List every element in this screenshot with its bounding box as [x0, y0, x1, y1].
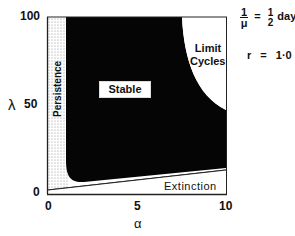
- limit-cycles-label-line2: Cycles: [190, 55, 224, 67]
- inv-mu-fraction: 1 μ: [240, 7, 248, 28]
- y-tick-50: 50: [24, 97, 37, 111]
- x-tick-0: 0: [45, 199, 52, 213]
- stable-label: Stable: [99, 81, 151, 98]
- x-tick-5: 5: [134, 199, 141, 213]
- y-tick-100: 100: [20, 9, 40, 23]
- mu-parameter: 1 μ = 1 2 day: [240, 7, 295, 28]
- x-axis-label: α: [134, 216, 142, 231]
- y-tick-0: 0: [33, 185, 40, 199]
- extinction-label: Extinction: [164, 180, 217, 192]
- r-parameter: r = 1·0: [247, 49, 292, 61]
- limit-cycles-label-line1: Limit: [194, 42, 222, 54]
- x-tick-10: 10: [219, 199, 232, 213]
- y-axis-label: λ: [8, 96, 16, 113]
- persistence-label: Persistence: [52, 61, 63, 117]
- half-fraction: 1 2: [267, 8, 275, 28]
